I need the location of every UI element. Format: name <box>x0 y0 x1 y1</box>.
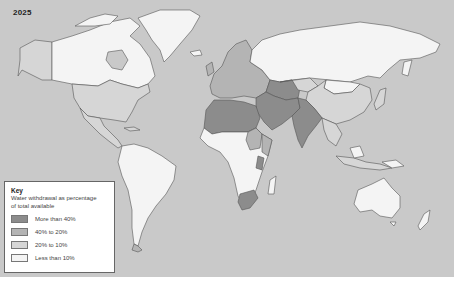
map-year-title: 2025 <box>13 8 32 17</box>
map-key: Key Water withdrawal as percentage of to… <box>4 181 115 273</box>
region-canada <box>52 18 155 88</box>
key-label: More than 40% <box>35 216 76 222</box>
region-north-africa <box>204 100 260 134</box>
region-japan <box>374 88 386 110</box>
key-description: Water withdrawal as percentage of total … <box>11 195 99 210</box>
region-russia <box>250 22 440 82</box>
region-kamchatka <box>402 60 412 76</box>
region-australia <box>354 178 400 218</box>
key-item-more-than-40: More than 40% <box>11 214 108 223</box>
key-label: 20% to 10% <box>35 242 67 248</box>
key-label: 40% to 20% <box>35 229 67 235</box>
region-south-america <box>118 144 176 246</box>
region-alaska <box>18 40 52 80</box>
swatch-more-than-40 <box>11 215 28 223</box>
swatch-20-to-10 <box>11 241 28 249</box>
region-borneo <box>350 146 364 158</box>
key-item-20-to-10: 20% to 10% <box>11 240 108 249</box>
swatch-40-to-20 <box>11 228 28 236</box>
region-horn-of-africa <box>262 134 272 156</box>
region-madagascar <box>268 176 276 194</box>
key-item-less-than-10: Less than 10% <box>11 253 108 262</box>
region-uk <box>206 62 214 76</box>
region-tasmania <box>390 222 396 226</box>
swatch-less-than-10 <box>11 254 28 262</box>
key-item-40-to-20: 40% to 20% <box>11 227 108 236</box>
region-iceland <box>190 50 202 56</box>
key-title: Key <box>11 187 108 195</box>
region-new-zealand <box>418 210 430 230</box>
world-map: 2025 Key Water withdrawal as percentage … <box>0 0 454 277</box>
key-label: Less than 10% <box>35 255 75 261</box>
region-patagonia <box>132 244 142 252</box>
region-caribbean <box>124 127 140 131</box>
